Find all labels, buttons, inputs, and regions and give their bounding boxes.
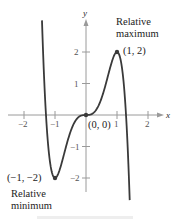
function-graph: x y −2 −1 1 2 2 1 −1 −2 Relative maximum… (0, 0, 173, 219)
relative-minimum-point (53, 176, 57, 180)
y-tick-label: 1 (74, 79, 79, 89)
y-tick-label: −1 (70, 142, 80, 152)
x-axis-arrow-icon (157, 113, 164, 118)
min-annotation-line1: Relative (11, 188, 46, 199)
x-axis-label: x (165, 110, 170, 120)
relative-maximum-point (115, 50, 119, 54)
origin-point (84, 113, 88, 117)
y-tick-label: 2 (74, 47, 79, 57)
caption-bar (37, 216, 133, 219)
x-tick-label: −2 (18, 119, 28, 129)
y-axis-label: y (82, 8, 87, 18)
x-tick-label: 1 (114, 119, 119, 129)
max-annotation-line2: maximum (116, 28, 159, 39)
y-axis-arrow-icon (84, 19, 89, 26)
max-point-label: (1, 2) (123, 45, 146, 57)
y-tick-label: −2 (70, 173, 80, 183)
x-tick-label: −1 (50, 119, 60, 129)
origin-point-label: (0, 0) (88, 119, 111, 131)
min-point-label: (−1, −2) (7, 172, 42, 184)
min-annotation-line2: minimum (11, 200, 52, 211)
max-annotation-line1: Relative (116, 16, 151, 27)
x-tick-label: 2 (145, 119, 150, 129)
